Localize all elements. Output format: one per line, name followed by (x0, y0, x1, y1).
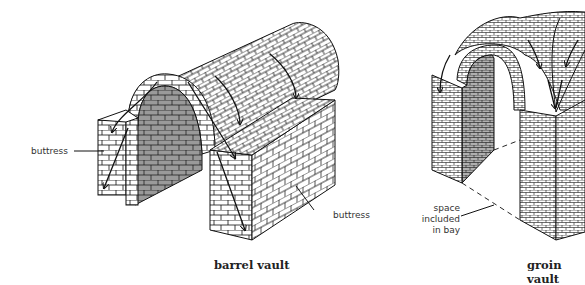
diagram-drawing (0, 0, 585, 285)
label-line-2: included (410, 214, 460, 225)
vault-diagram: buttress buttress barrel vault space inc… (0, 0, 585, 285)
label-buttress-right: buttress (333, 210, 370, 221)
label-line-3: in bay (410, 225, 460, 236)
label-buttress-left: buttress (31, 146, 68, 157)
bay-space-leader (461, 205, 494, 216)
caption-barrel-vault: barrel vault (214, 258, 289, 272)
label-line-1: space (410, 203, 460, 214)
label-space-included-in-bay: space included in bay (410, 203, 460, 236)
caption-groin-vault: groin vault (527, 258, 585, 285)
barrel-vault-drawing (74, 23, 339, 240)
